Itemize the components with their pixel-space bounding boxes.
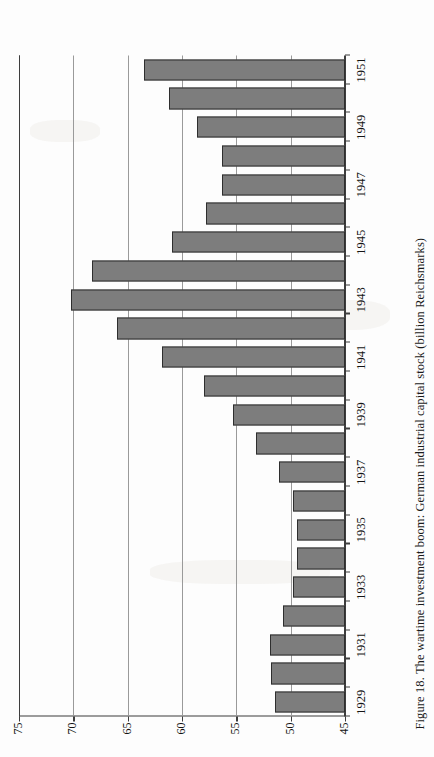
category-label-1933: 1933	[354, 565, 369, 609]
category-tick-1951	[345, 83, 350, 84]
rotated-figure: Figure 18. The wartime investment boom: …	[0, 0, 434, 757]
bar-1935	[297, 519, 345, 540]
category-tick-1944	[345, 284, 350, 285]
category-tick-1946	[345, 226, 350, 227]
category-label-1931: 1931	[354, 622, 369, 666]
category-label-1945: 1945	[354, 220, 369, 264]
value-label-55: 55	[228, 722, 243, 746]
category-label-1929: 1929	[354, 680, 369, 724]
gridline-45	[345, 55, 346, 716]
category-label-1947: 1947	[354, 162, 369, 206]
value-tick-75	[19, 716, 20, 721]
category-tick-1937	[345, 485, 350, 486]
bar-1934	[297, 547, 345, 568]
category-tick-1948	[345, 169, 350, 170]
value-label-75: 75	[11, 722, 26, 746]
category-tick-1942	[345, 341, 350, 342]
value-label-45: 45	[337, 722, 352, 746]
category-tick-1932	[345, 629, 350, 630]
bar-1939	[233, 404, 345, 425]
category-tick-1940	[345, 399, 350, 400]
category-tick-1939	[345, 427, 350, 428]
bar-1946	[206, 202, 345, 223]
value-tick-50	[291, 716, 292, 721]
bar-1941	[162, 346, 345, 367]
value-tick-65	[128, 716, 129, 721]
category-label-1949: 1949	[354, 105, 369, 149]
category-label-1937: 1937	[354, 450, 369, 494]
value-tick-70	[73, 716, 74, 721]
bar-1929	[275, 691, 345, 712]
category-tick-1949	[345, 140, 350, 141]
bar-1950	[169, 87, 345, 108]
bar-1938	[256, 432, 345, 453]
category-tick-1933	[345, 600, 350, 601]
gridline-70	[73, 55, 74, 716]
gridline-75	[19, 55, 20, 716]
value-label-50: 50	[283, 722, 298, 746]
category-tick-1945	[345, 255, 350, 256]
category-tick-1929	[345, 715, 350, 716]
bar-1948	[222, 145, 345, 166]
bar-1933	[293, 576, 345, 597]
category-tick-1935	[345, 542, 350, 543]
bar-1931	[270, 634, 345, 655]
bar-1949	[197, 116, 345, 137]
bar-1940	[204, 375, 345, 396]
bar-1944	[92, 260, 345, 281]
plot-area: 45505560657075 1929193119331935193719391…	[19, 55, 345, 716]
bar-1943	[71, 289, 345, 310]
value-label-65: 65	[120, 722, 135, 746]
category-tick-1931	[345, 657, 350, 658]
category-tick-end	[345, 54, 350, 55]
bar-1937	[279, 461, 345, 482]
category-label-1943: 1943	[354, 277, 369, 321]
category-tick-1930	[345, 686, 350, 687]
bar-1942	[117, 317, 345, 338]
value-label-70: 70	[65, 722, 80, 746]
value-label-60: 60	[174, 722, 189, 746]
category-tick-1934	[345, 571, 350, 572]
value-tick-60	[182, 716, 183, 721]
category-label-1935: 1935	[354, 507, 369, 551]
category-tick-1941	[345, 370, 350, 371]
category-tick-1938	[345, 456, 350, 457]
bar-1945	[172, 231, 345, 252]
bar-1951	[144, 59, 345, 80]
category-tick-1950	[345, 111, 350, 112]
category-tick-1943	[345, 312, 350, 313]
bar-1930	[271, 662, 345, 683]
figure-page: Figure 18. The wartime investment boom: …	[0, 0, 434, 757]
figure-caption: Figure 18. The wartime investment boom: …	[413, 0, 428, 757]
value-tick-55	[236, 716, 237, 721]
category-tick-1936	[345, 514, 350, 515]
gridline-60	[182, 55, 183, 716]
bar-1947	[222, 174, 345, 195]
bar-1932	[283, 605, 345, 626]
category-label-1951: 1951	[354, 47, 369, 91]
gridline-65	[128, 55, 129, 716]
value-tick-45	[345, 716, 346, 721]
category-tick-1947	[345, 198, 350, 199]
category-label-1939: 1939	[354, 392, 369, 436]
bar-1936	[293, 490, 345, 511]
category-label-1941: 1941	[354, 335, 369, 379]
